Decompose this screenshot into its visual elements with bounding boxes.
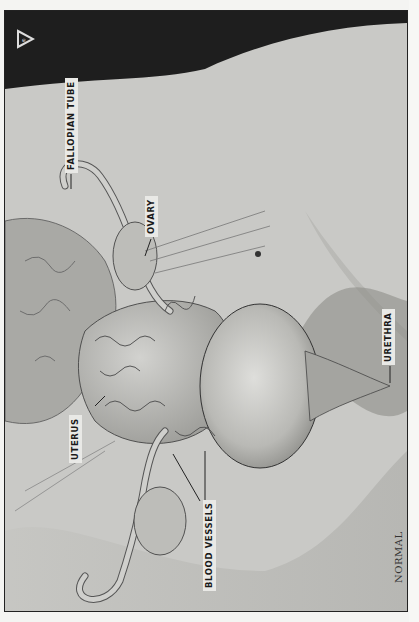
dark-background <box>5 11 407 89</box>
label-ovary: OVARY <box>145 196 158 237</box>
illustration-frame: e FALLOPIAN TUBE OVARY UTERUS BLOOD VESS… <box>4 10 408 612</box>
triangle-logo-icon: e <box>15 29 35 49</box>
page-margin <box>409 0 419 622</box>
label-urethra: URETHRA <box>382 310 395 366</box>
label-blood-vessels: BLOOD VESSELS <box>203 500 216 591</box>
svg-text:e: e <box>22 36 26 43</box>
label-fallopian-tube: FALLOPIAN TUBE <box>65 78 78 173</box>
figure-caption: NORMAL <box>393 531 404 583</box>
label-uterus: UTERUS <box>69 415 82 463</box>
